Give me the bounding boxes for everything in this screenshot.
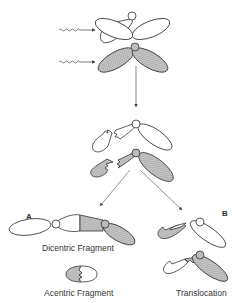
arrow-to-a: [100, 170, 130, 206]
translocation-label: Translocation: [176, 288, 227, 298]
radiation-arrow-2: [59, 61, 95, 63]
chromosome-aberration-diagram: [0, 0, 249, 303]
dicentric-label: Dicentric Fragment: [42, 243, 114, 253]
radiation-arrow-1: [59, 29, 95, 31]
outcome-label-a: A: [26, 212, 32, 221]
centromere: [131, 43, 139, 51]
chromosome-2-intact: [95, 43, 172, 77]
acentric-label: Acentric Fragment: [44, 288, 113, 298]
translocation-chromosome-1: [158, 216, 229, 252]
acentric-fragment: [66, 266, 97, 282]
chromosome-2-broken: [91, 148, 178, 186]
chromosome-1-intact: [92, 12, 172, 44]
translocation-chromosome-2: [163, 250, 231, 286]
outcome-label-b: B: [222, 209, 228, 218]
centromere: [128, 12, 136, 20]
